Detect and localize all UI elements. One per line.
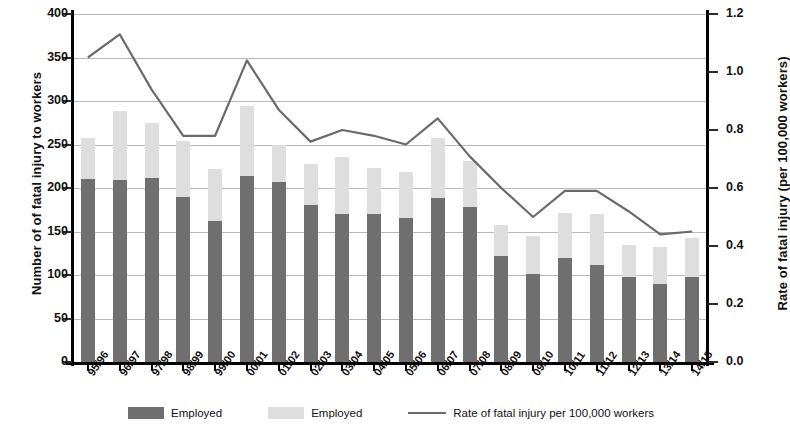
chart-legend: Employed Employed Rate of fatal injury p… (128, 407, 654, 419)
legend-item-self-employed: Employed (268, 407, 362, 419)
rate-line-series (72, 14, 708, 362)
right-tick-label: 0.2 (726, 296, 772, 310)
legend-line-icon (408, 412, 446, 414)
right-tick-label: 1.0 (726, 64, 772, 78)
left-tick-label: 150 (22, 224, 68, 238)
right-tick-label: 0.4 (726, 238, 772, 252)
right-tick-mark (708, 71, 718, 73)
right-tick-mark (708, 245, 718, 247)
left-tick-label: 300 (22, 93, 68, 107)
right-tick-label: 0.6 (726, 180, 772, 194)
legend-label-self-employed: Employed (311, 407, 362, 419)
right-tick-mark (708, 187, 718, 189)
rate-line-path (88, 34, 692, 234)
legend-swatch-self-employed (268, 407, 304, 419)
right-axis-title: Rate of fatal injury (per 100,000 worker… (775, 44, 790, 324)
left-tick-label: 0 (22, 354, 68, 368)
legend-item-rate: Rate of fatal injury per 100,000 workers (408, 407, 654, 419)
left-tick-label: 350 (22, 50, 68, 64)
right-tick-label: 0.8 (726, 122, 772, 136)
left-tick-label: 100 (22, 267, 68, 281)
legend-item-employed: Employed (128, 407, 222, 419)
right-tick-label: 1.2 (726, 6, 772, 20)
right-tick-label: 0.0 (726, 354, 772, 368)
plot-area: 050100150200250300350400 0.00.20.40.60.8… (72, 14, 708, 362)
legend-swatch-employed (128, 407, 164, 419)
left-tick-label: 400 (22, 6, 68, 20)
left-tick-label: 200 (22, 180, 68, 194)
left-tick-label: 250 (22, 137, 68, 151)
right-tick-mark (708, 129, 718, 131)
legend-label-employed: Employed (171, 407, 222, 419)
right-tick-mark (708, 303, 718, 305)
right-tick-mark (708, 13, 718, 15)
left-tick-label: 50 (22, 311, 68, 325)
legend-label-rate: Rate of fatal injury per 100,000 workers (453, 407, 654, 419)
